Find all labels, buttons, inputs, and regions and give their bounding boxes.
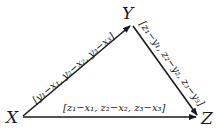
- edge-xz-label: [z₁−x₁, z₂−x₂, z₃−x₃]: [63, 102, 166, 113]
- edge-yz-label: [z₁−y₁, z₂−y₂, z₃−y₃]: [137, 19, 206, 108]
- vector-triangle-diagram: X Y Z [y₁−x₁, y₂−x₂, y₃−x₃] [z₁−y₁, z₂−y…: [0, 0, 220, 136]
- vertex-x-label: X: [4, 107, 19, 127]
- vertex-z-label: Z: [200, 108, 214, 128]
- edge-xy-label: [y₁−x₁, y₂−x₂, y₃−x₃]: [30, 30, 116, 105]
- vertex-y-label: Y: [122, 3, 135, 23]
